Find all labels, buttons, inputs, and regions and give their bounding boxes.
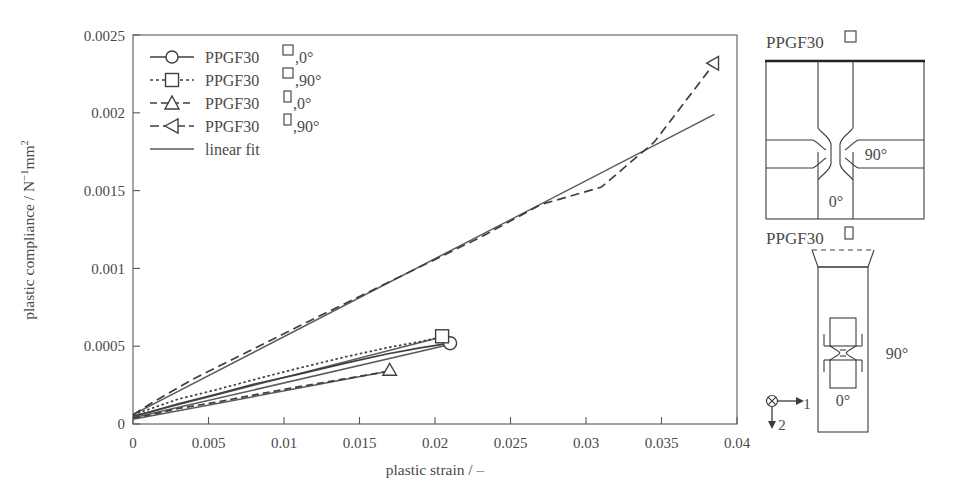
figure-root: 0 0.005 0.01 0.015 0.02 0.025 0.03 0.035… — [0, 0, 955, 501]
legend-label-0: PPGF30 — [205, 49, 259, 66]
bar-label-90deg: 90° — [886, 345, 908, 362]
orientation-axis-indicator: 1 2 — [767, 396, 811, 434]
legend-item-ppgf30-bar-0deg[interactable]: PPGF30 ,0° — [150, 91, 311, 112]
svg-text:plastic compliance / N−1mm2: plastic compliance / N−1mm2 — [19, 140, 37, 320]
y-axis-title-main: plastic compliance / N — [20, 181, 37, 320]
x-tick-label-7: 0.035 — [645, 435, 679, 451]
bar-label-0deg: 0° — [836, 392, 850, 409]
chart-legend: PPGF30 ,0° PPGF30 ,90° — [150, 45, 321, 158]
plate-waist-h-left-top — [813, 140, 826, 150]
bar-inner-waist-ul — [830, 346, 840, 353]
bar-inner-waist-ur — [846, 346, 856, 353]
data-markers — [383, 56, 719, 375]
legend-marker-square-icon — [166, 74, 179, 87]
bar-inner-upper-grip — [830, 318, 856, 346]
y-axis-title-sup2: 2 — [19, 140, 30, 145]
bar-glyph-icon-title — [845, 227, 853, 239]
specimen-plate-diagram: PPGF30 90° 0° — [765, 31, 925, 219]
legend-marker-triangle-left-icon — [165, 119, 178, 133]
series-line-ppgf30-bar-90deg — [133, 63, 714, 415]
legend-suffix-0: ,0° — [295, 49, 313, 66]
legend-suffix-1: ,90° — [295, 72, 321, 89]
marker-square-ppgf30-plate-90deg — [436, 330, 449, 343]
y-axis-title-sup1: −1 — [19, 170, 30, 181]
bar-taper-top — [812, 250, 874, 267]
linear-fit-lines — [133, 114, 714, 419]
bar-inner-lower-grip — [830, 360, 856, 388]
plate-label-0deg: 0° — [829, 193, 843, 210]
bar-glyph-icon-legend-3 — [284, 114, 291, 125]
y-tick-label-3: 0.0015 — [84, 183, 125, 199]
x-tick-label-6: 0.03 — [573, 435, 599, 451]
legend-label-3: PPGF30 — [205, 118, 259, 135]
plate-waist-h-right-bot — [845, 158, 858, 168]
specimen-bar-title: PPGF30 — [766, 229, 824, 248]
marker-triangle-up-ppgf30-bar-0deg — [383, 364, 397, 376]
legend-marker-circle-icon — [166, 51, 178, 63]
plate-waist-left — [818, 128, 831, 180]
x-tick-label-8: 0.04 — [724, 435, 751, 451]
legend-label-1: PPGF30 — [205, 72, 259, 89]
legend-suffix-2: ,0° — [293, 95, 311, 112]
x-tick-label-4: 0.02 — [422, 435, 448, 451]
plate-glyph-icon-legend-1 — [283, 68, 293, 78]
axis-indicator-label-2: 2 — [778, 417, 786, 433]
x-tick-label-3: 0.015 — [343, 435, 377, 451]
plate-label-90deg: 90° — [865, 146, 887, 163]
x-tick-label-5: 0.025 — [494, 435, 528, 451]
legend-label-4: linear fit — [205, 141, 260, 158]
plate-waist-h-left-bot — [813, 158, 826, 168]
x-tick-label-2: 0.01 — [271, 435, 297, 451]
y-tick-label-5: 0.0025 — [84, 28, 125, 44]
data-curves — [133, 63, 714, 419]
bar-inner-waist-ll — [830, 353, 840, 360]
x-axis-ticks — [133, 417, 737, 424]
legend-label-2: PPGF30 — [205, 95, 259, 112]
plot-frame — [133, 35, 737, 424]
y-tick-label-1: 0.0005 — [84, 338, 125, 354]
legend-item-ppgf30-plate-90deg[interactable]: PPGF30 ,90° — [150, 68, 321, 89]
legend-item-ppgf30-bar-90deg[interactable]: PPGF30 ,90° — [150, 114, 319, 135]
legend-item-linear-fit[interactable]: linear fit — [150, 141, 260, 158]
linear-fit-series-0 — [133, 345, 450, 418]
legend-item-ppgf30-plate-0deg[interactable]: PPGF30 ,0° — [150, 45, 313, 66]
plate-glyph-icon-title — [845, 31, 856, 42]
series-line-ppgf30-plate-0deg — [133, 343, 450, 416]
bar-inner-waist-lr — [846, 353, 856, 360]
x-tick-label-1: 0.005 — [192, 435, 226, 451]
specimen-plate-title: PPGF30 — [766, 33, 824, 52]
y-axis-title: plastic compliance / N−1mm2 — [19, 140, 37, 320]
x-tick-labels: 0 0.005 0.01 0.015 0.02 0.025 0.03 0.035… — [129, 435, 750, 451]
axis-arrow-2-head-icon — [768, 421, 776, 429]
y-axis-ticks — [133, 35, 140, 424]
y-tick-label-2: 0.001 — [91, 261, 125, 277]
y-tick-labels: 0 0.0005 0.001 0.0015 0.002 0.0025 — [84, 28, 125, 433]
y-tick-label-4: 0.002 — [91, 105, 125, 121]
bar-glyph-icon-legend-2 — [284, 91, 291, 102]
x-tick-label-0: 0 — [129, 435, 137, 451]
y-axis-title-mid: mm — [20, 145, 37, 169]
x-axis-title: plastic strain / – — [386, 461, 485, 478]
plate-waist-right — [840, 128, 853, 180]
plate-glyph-icon-legend-0 — [283, 45, 293, 55]
y-tick-label-0: 0 — [118, 416, 126, 432]
plate-waist-h-right-top — [845, 140, 858, 150]
legend-suffix-3: ,90° — [293, 118, 319, 135]
axis-indicator-label-1: 1 — [803, 396, 811, 412]
figure-canvas: 0 0.005 0.01 0.015 0.02 0.025 0.03 0.035… — [0, 0, 955, 501]
marker-triangle-left-ppgf30-bar-90deg — [707, 56, 719, 70]
